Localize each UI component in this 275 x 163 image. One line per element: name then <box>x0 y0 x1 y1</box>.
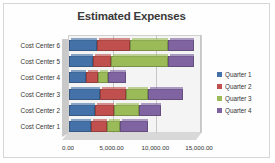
bar-row[interactable] <box>62 121 202 132</box>
bar-segment-top-face <box>71 87 100 90</box>
legend-label: Quarter 3 <box>225 95 252 102</box>
bar-segment-top-face <box>88 70 97 73</box>
bar-segment[interactable] <box>97 40 130 51</box>
bar-segment[interactable] <box>168 56 194 67</box>
bar-segment-top-face <box>170 38 194 41</box>
bar-segment[interactable] <box>120 121 148 132</box>
bar-segment-top-face <box>99 38 130 41</box>
bar-segment-top-face <box>113 54 168 57</box>
legend-swatch <box>217 84 222 89</box>
bar-segment-top-face <box>71 119 91 122</box>
x-tick-label: 0.00 <box>48 144 88 151</box>
bar-segment-top-face <box>71 38 97 41</box>
legend-label: Quarter 1 <box>225 71 252 78</box>
legend-item[interactable]: Quarter 2 <box>217 80 273 92</box>
x-tick-label: 15,000.00 <box>179 144 219 151</box>
category-label: Cost Center 5 <box>6 58 60 65</box>
bar-segment[interactable] <box>69 72 86 83</box>
bar-row[interactable] <box>62 72 202 83</box>
bar-segment-top-face <box>95 54 110 57</box>
bar-segment[interactable] <box>69 40 97 51</box>
plot-area <box>62 35 202 141</box>
legend-item[interactable]: Quarter 1 <box>217 68 273 80</box>
legend-item[interactable]: Quarter 4 <box>217 104 273 116</box>
bar-segment[interactable] <box>98 72 108 83</box>
bar-segment[interactable] <box>100 89 126 100</box>
bar-row[interactable] <box>62 89 202 100</box>
bar-segment-top-face <box>100 70 108 73</box>
bar-segment-top-face <box>116 103 138 106</box>
bar-segment-top-face <box>71 103 95 106</box>
bar-segment[interactable] <box>148 89 183 100</box>
legend-label: Quarter 2 <box>225 83 252 90</box>
category-label: Cost Center 1 <box>6 123 60 130</box>
x-tick-label: 10,000.00 <box>135 144 175 151</box>
bar-segment[interactable] <box>108 72 125 83</box>
bar-segment-top-face <box>109 119 120 122</box>
bar-row[interactable] <box>62 56 202 67</box>
legend-swatch <box>217 108 222 113</box>
chart-title: Estimated Expenses <box>44 10 219 22</box>
bar-segment-top-face <box>110 70 125 73</box>
bar-row[interactable] <box>62 105 202 116</box>
bar-row[interactable] <box>62 40 202 51</box>
legend-swatch <box>217 96 222 101</box>
bar-segment-top-face <box>71 54 93 57</box>
x-tick-label: 5,000.00 <box>92 144 132 151</box>
bar-segment[interactable] <box>86 72 97 83</box>
bar-segment-top-face <box>93 119 107 122</box>
bar-segment-top-face <box>71 70 86 73</box>
bar-segment-top-face <box>97 103 114 106</box>
chart-legend[interactable]: Quarter 1Quarter 2Quarter 3Quarter 4 <box>217 68 273 116</box>
bar-segment-top-face <box>122 119 148 122</box>
bar-segment-top-face <box>132 38 168 41</box>
plot-floor <box>62 132 202 140</box>
category-label: Cost Center 4 <box>6 74 60 81</box>
category-label: Cost Center 2 <box>6 107 60 114</box>
bar-segment-top-face <box>128 87 148 90</box>
bar-segment[interactable] <box>69 121 91 132</box>
bar-segment[interactable] <box>168 40 194 51</box>
bar-segment[interactable] <box>69 89 100 100</box>
bar-segment[interactable] <box>93 56 110 67</box>
category-label: Cost Center 6 <box>6 42 60 49</box>
bar-segment-top-face <box>170 54 194 57</box>
bar-segment[interactable] <box>126 89 148 100</box>
bar-segment[interactable] <box>130 40 168 51</box>
bar-segment[interactable] <box>69 105 95 116</box>
chart-container[interactable]: Estimated Expenses Cost Center 1Cost Cen… <box>3 3 270 158</box>
bar-segment[interactable] <box>91 121 107 132</box>
bar-segment[interactable] <box>139 105 161 116</box>
legend-swatch <box>217 72 222 77</box>
bar-segment[interactable] <box>107 121 120 132</box>
bar-segment[interactable] <box>69 56 93 67</box>
bar-segment-top-face <box>141 103 161 106</box>
bar-segment[interactable] <box>114 105 138 116</box>
bar-segment-top-face <box>150 87 183 90</box>
category-label: Cost Center 3 <box>6 91 60 98</box>
bar-segment[interactable] <box>95 105 114 116</box>
bar-segment[interactable] <box>111 56 168 67</box>
legend-item[interactable]: Quarter 3 <box>217 92 273 104</box>
bar-segment-top-face <box>102 87 126 90</box>
legend-label: Quarter 4 <box>225 107 252 114</box>
